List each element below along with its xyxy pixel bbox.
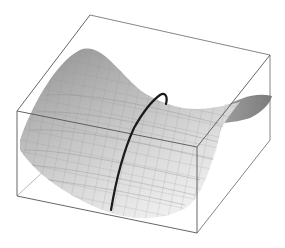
plot-canvas	[0, 0, 285, 248]
saddle-surface	[0, 0, 285, 248]
saddle-surface-plot	[0, 0, 285, 248]
